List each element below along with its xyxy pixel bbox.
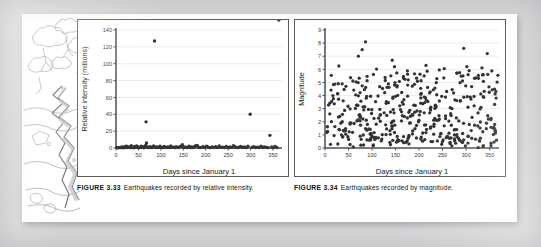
svg-text:80: 80 [106,78,112,84]
figure-3-34-block: 0123456789050100150200250300350Days sinc… [294,19,506,193]
svg-text:200: 200 [414,152,423,158]
svg-text:Days since January 1: Days since January 1 [376,167,449,176]
svg-text:8: 8 [318,40,321,46]
svg-text:50: 50 [345,152,351,158]
svg-text:300: 300 [461,152,470,158]
svg-text:350: 350 [485,152,494,158]
figure-3-33-caption-text: Earthquakes recorded by relative intensi… [124,184,254,191]
svg-text:120: 120 [103,44,112,50]
svg-text:150: 150 [391,152,400,158]
svg-text:5: 5 [318,80,321,86]
svg-text:3: 3 [318,106,321,112]
figure-3-33-caption: FIGURE 3.33Earthquakes recorded by relat… [77,183,277,193]
svg-text:0: 0 [323,152,326,158]
svg-text:1: 1 [318,132,321,138]
figure-3-33-label: FIGURE 3.33 [77,184,121,191]
svg-text:2: 2 [318,119,321,125]
chart-panel-magnitude: 0123456789050100150200250300350Days sinc… [294,19,506,177]
svg-text:0: 0 [318,145,321,151]
svg-text:Relative intensity (millions): Relative intensity (millions) [80,46,89,131]
svg-text:250: 250 [438,152,447,158]
svg-text:9: 9 [318,27,321,33]
svg-text:0: 0 [114,152,117,158]
svg-text:350: 350 [268,152,277,158]
svg-text:50: 50 [135,152,141,158]
svg-text:0: 0 [109,145,112,151]
svg-text:300: 300 [246,152,255,158]
svg-text:40: 40 [106,111,112,117]
screenshot-root: 020406080100120140050100150200250300350D… [0,0,541,247]
figure-3-33-block: 020406080100120140050100150200250300350D… [77,19,289,193]
svg-text:4: 4 [318,93,321,99]
svg-text:100: 100 [156,152,165,158]
svg-text:7: 7 [318,53,321,59]
scatter-plot-magnitude: 0123456789050100150200250300350Days sinc… [295,20,505,176]
svg-text:200: 200 [201,152,210,158]
svg-text:Magnitude: Magnitude [297,72,306,106]
svg-text:150: 150 [179,152,188,158]
svg-text:6: 6 [318,67,321,73]
figure-3-34-caption: FIGURE 3.34Earthquakes recorded by magni… [294,183,494,193]
svg-text:140: 140 [103,27,112,33]
svg-text:20: 20 [106,128,112,134]
chart-panel-relative-intensity: 020406080100120140050100150200250300350D… [77,19,289,177]
svg-text:100: 100 [367,152,376,158]
figure-3-34-caption-text: Earthquakes recorded by magnitude. [341,184,454,191]
svg-text:250: 250 [223,152,232,158]
svg-text:100: 100 [103,61,112,67]
svg-text:60: 60 [106,95,112,101]
svg-text:Days since January 1: Days since January 1 [163,167,236,176]
figure-3-34-label: FIGURE 3.34 [294,184,338,191]
scatter-plot-relative-intensity: 020406080100120140050100150200250300350D… [78,20,288,176]
